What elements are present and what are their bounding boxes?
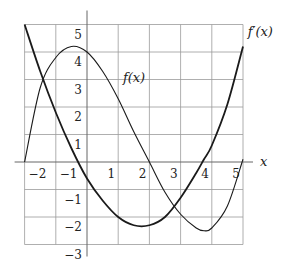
y-tick-label: 5: [74, 28, 82, 42]
label-fprime: f′(x): [247, 24, 273, 39]
x-tick-label: 4: [201, 167, 209, 181]
x-tick-label: −1: [60, 167, 78, 181]
tick-labels: −2−11234554321−1−2−3: [29, 28, 240, 262]
y-tick-label: 1: [74, 138, 82, 152]
y-tick-label: 2: [74, 110, 82, 124]
x-tick-label: 2: [139, 167, 147, 181]
x-tick-label: −2: [29, 167, 47, 181]
y-tick-label: 4: [74, 55, 82, 69]
x-axis-label: x: [260, 154, 268, 169]
chart-figure: −2−11234554321−1−2−3 f(x) f′(x) x: [0, 0, 289, 271]
y-tick-label: −2: [64, 220, 82, 234]
y-tick-label: −3: [64, 248, 82, 262]
x-tick-label: 3: [170, 167, 178, 181]
y-tick-label: −1: [64, 193, 82, 207]
x-tick-label: 1: [108, 167, 116, 181]
grid: [25, 25, 243, 245]
y-tick-label: 3: [74, 83, 82, 97]
label-f: f(x): [122, 70, 145, 85]
